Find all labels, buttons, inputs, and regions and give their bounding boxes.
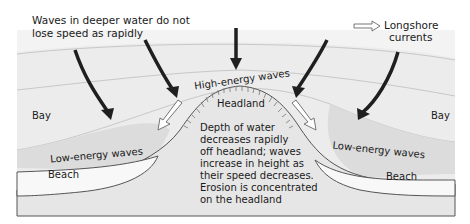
legend-label-2: currents <box>389 31 432 43</box>
wave-refraction-diagram: Waves in deeper water do not lose speed … <box>0 0 470 224</box>
hollow-arrow-icon <box>354 21 380 31</box>
note-line-2: decreases rapidly <box>200 134 288 145</box>
beach-left-label: Beach <box>48 169 79 180</box>
legend-label-1: Longshore <box>384 19 439 31</box>
note-line-4: increase in height as <box>200 158 304 169</box>
note-line-1: Depth of water <box>200 122 276 133</box>
bay-right-label: Bay <box>431 110 450 121</box>
deeper-water-label-2: lose speed as rapidly <box>32 27 143 39</box>
note-line-3: off headland; waves <box>200 146 301 157</box>
bay-left-label: Bay <box>32 110 51 121</box>
deeper-water-label-1: Waves in deeper water do not <box>32 14 190 26</box>
note-line-5: their speed decreases. <box>200 170 314 181</box>
beach-right-label: Beach <box>386 171 417 182</box>
note-line-7: on the headland <box>200 194 282 205</box>
headland-label: Headland <box>217 98 265 109</box>
note-line-6: Erosion is concentrated <box>200 182 318 193</box>
